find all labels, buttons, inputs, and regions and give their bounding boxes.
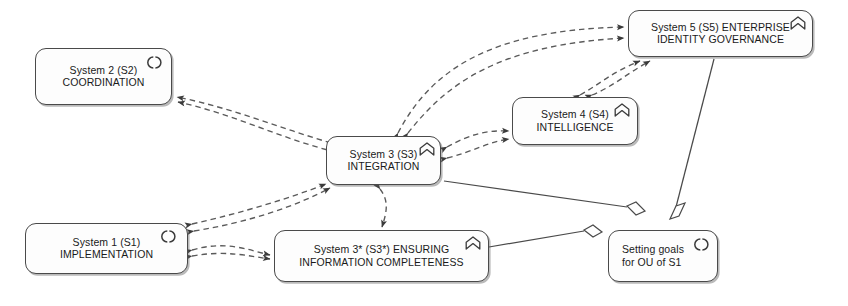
system-1-node[interactable]: System 1 (S1) IMPLEMENTATION xyxy=(25,223,188,274)
system-5-node[interactable]: System 5 (S5) ENTERPRISE IDENTITY GOVERN… xyxy=(628,10,813,57)
system-3-star-label: System 3* (S3*) ENSURING INFORMATION COM… xyxy=(281,243,482,269)
s1-to-s3-flow-2[interactable] xyxy=(194,188,330,231)
system-1-label: System 1 (S1) IMPLEMENTATION xyxy=(32,236,181,262)
interaction-icon xyxy=(160,230,177,243)
function-icon xyxy=(790,16,806,30)
s3-to-s3star-flow[interactable] xyxy=(380,189,386,227)
function-icon xyxy=(419,142,435,156)
setting-goals-label: Setting goals for OU of S1 xyxy=(622,243,691,269)
system-3-node[interactable]: System 3 (S3) INTEGRATION xyxy=(326,136,441,185)
aggregation-diamond-s3 xyxy=(627,202,645,215)
system-3-star-node[interactable]: System 3* (S3*) ENSURING INFORMATION COM… xyxy=(274,230,489,282)
diagram-canvas: System 2 (S2) COORDINATION System 5 (S5)… xyxy=(0,0,848,306)
s3-to-s4-flow[interactable] xyxy=(447,131,509,147)
function-icon xyxy=(465,236,481,250)
s3-to-s2-flow[interactable] xyxy=(177,97,331,143)
system-5-label: System 5 (S5) ENTERPRISE IDENTITY GOVERN… xyxy=(635,21,806,47)
aggregation-diamond-s5 xyxy=(670,203,685,219)
interaction-icon xyxy=(693,238,710,251)
s2-to-s3-flow[interactable] xyxy=(178,102,336,152)
s4-to-s5-flow[interactable] xyxy=(580,61,640,95)
s4-to-s5-flow-2[interactable] xyxy=(592,61,650,95)
s3-to-goals-aggregation[interactable] xyxy=(444,181,627,207)
s1-to-s3star-flow-2[interactable] xyxy=(192,253,270,259)
aggregation-diamond-s3star xyxy=(584,225,602,237)
s1-to-s3-flow[interactable] xyxy=(192,184,326,224)
function-icon xyxy=(614,103,630,117)
system-4-node[interactable]: System 4 (S4) INTELLIGENCE xyxy=(512,97,638,145)
interaction-icon xyxy=(146,56,163,69)
s3star-to-goals-aggregation[interactable] xyxy=(489,231,584,247)
s5-to-goals-aggregation[interactable] xyxy=(676,59,714,207)
system-2-node[interactable]: System 2 (S2) COORDINATION xyxy=(35,48,172,105)
setting-goals-node[interactable]: Setting goals for OU of S1 xyxy=(608,230,718,282)
